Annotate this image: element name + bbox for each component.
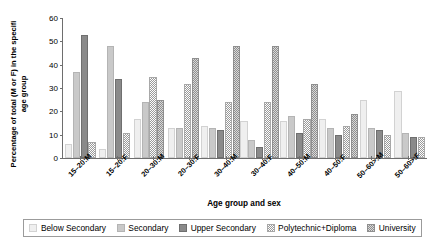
bar — [184, 84, 191, 158]
legend-item[interactable]: Below Secondary — [29, 223, 106, 233]
bar — [192, 58, 199, 158]
bar — [149, 77, 156, 158]
bar — [81, 35, 88, 158]
bar — [311, 84, 318, 158]
x-tick-wrap: 30–40:M — [208, 160, 244, 204]
legend-swatch-icon — [367, 224, 375, 232]
bar-group — [97, 18, 131, 158]
bar-group — [279, 18, 318, 158]
bar-group — [319, 18, 358, 158]
bar — [201, 126, 208, 158]
bar-group — [166, 18, 200, 158]
bar — [240, 121, 247, 158]
bar — [157, 100, 164, 158]
x-tick-wrap: 15–20:M — [62, 160, 98, 204]
bar — [384, 135, 391, 158]
legend-swatch-icon — [179, 224, 187, 232]
bar — [327, 128, 334, 158]
x-tick-wrap: 40–50:F — [317, 160, 353, 204]
legend-item[interactable]: Secondary — [117, 223, 169, 233]
bar-group — [201, 18, 240, 158]
x-tick-wrap: 30–40:F — [244, 160, 280, 204]
bar — [264, 102, 271, 158]
legend-swatch-icon — [29, 224, 37, 232]
x-tick-wrap: 50–60>:F — [390, 160, 426, 204]
bar-group — [63, 18, 97, 158]
legend-item[interactable]: Polytechnic+Diploma — [267, 223, 357, 233]
bar — [319, 119, 326, 158]
bar — [225, 102, 232, 158]
legend-label: University — [379, 223, 416, 233]
legend-label: Below Secondary — [41, 223, 106, 233]
bar — [142, 102, 149, 158]
bar-group — [132, 18, 166, 158]
legend-item[interactable]: Upper Secondary — [179, 223, 256, 233]
bar — [360, 100, 367, 158]
x-tick-wrap: 40–50:M — [280, 160, 316, 204]
legend-label: Upper Secondary — [191, 223, 256, 233]
legend-label: Secondary — [128, 223, 168, 233]
y-axis-title: Percentage of total (M or F) in the spec… — [9, 19, 29, 169]
x-tick-wrap: 20–30:M — [135, 160, 171, 204]
bar — [233, 46, 240, 158]
legend-item[interactable]: University — [367, 223, 415, 233]
bar — [107, 46, 114, 158]
legend-label: Polytechnic+Diploma — [278, 223, 356, 233]
legend-swatch-icon — [267, 224, 275, 232]
bar — [394, 91, 401, 158]
bar — [248, 140, 255, 158]
y-tick-mark — [60, 158, 63, 159]
x-tick-wrap: 20–30:F — [171, 160, 207, 204]
bar — [99, 149, 106, 158]
bar — [176, 128, 183, 158]
bar — [209, 128, 216, 158]
bar — [351, 114, 358, 158]
legend-swatch-icon — [117, 224, 125, 232]
x-axis-labels: 15–20:M15–20:F20–30:M20–30:F30–40:M30–40… — [62, 160, 426, 204]
bar — [288, 116, 295, 158]
x-tick-wrap: 15–20:F — [98, 160, 134, 204]
bar — [402, 133, 409, 158]
x-axis-title: Age group and sex — [62, 199, 426, 208]
plot-area: 0102030405060 — [62, 18, 427, 159]
bar — [73, 72, 80, 158]
bar — [280, 121, 287, 158]
x-tick-wrap: 50–60>:M — [353, 160, 389, 204]
bar — [272, 46, 279, 158]
bar-group — [358, 18, 392, 158]
chart-legend: Below SecondarySecondaryUpper SecondaryP… — [23, 219, 422, 237]
bar — [65, 144, 72, 158]
bar — [115, 79, 122, 158]
bar-group — [393, 18, 427, 158]
bar-chart-figure: Percentage of total (M or F) in the spec… — [0, 0, 445, 250]
bar — [134, 119, 141, 158]
bar-groups — [63, 18, 427, 158]
bar-group — [240, 18, 279, 158]
bar — [217, 130, 224, 158]
bar — [168, 128, 175, 158]
